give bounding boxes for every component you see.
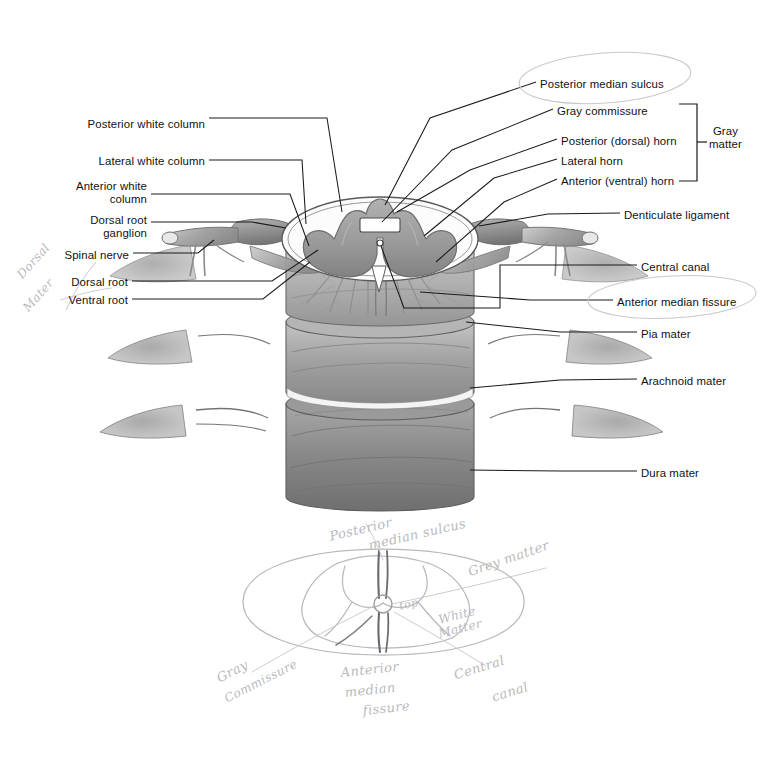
label-dorsal-root: Dorsal root <box>62 276 128 289</box>
label-anterior-ventral-horn: Anterior (ventral) horn <box>561 175 687 188</box>
label-lateral-white-column: Lateral white column <box>96 155 205 168</box>
label-dorsal-root-ganglion: Dorsal root ganglion <box>63 214 147 240</box>
label-anterior-white-column: Anterior white column <box>52 180 147 206</box>
label-arachnoid-mater: Arachnoid mater <box>641 375 737 388</box>
label-pia-mater: Pia mater <box>641 328 699 341</box>
label-gray-commissure: Gray commissure <box>557 105 657 118</box>
label-denticulate-ligament: Denticulate ligament <box>624 209 742 222</box>
label-lateral-horn: Lateral horn <box>561 155 633 168</box>
figure-canvas: Posterior white columnLateral white colu… <box>0 0 760 763</box>
label-ventral-root: Ventral root <box>59 294 128 307</box>
label-posterior-white-column: Posterior white column <box>83 118 205 131</box>
label-spinal-nerve: Spinal nerve <box>58 249 129 262</box>
label-posterior-median-sulcus: Posterior median sulcus <box>540 78 680 91</box>
label-central-canal: Central canal <box>641 261 721 274</box>
label-posterior-dorsal-horn: Posterior (dorsal) horn <box>561 135 687 148</box>
gray-matter-bracket-label: Gray matter <box>709 125 742 151</box>
label-dura-mater: Dura mater <box>641 467 707 480</box>
label-anterior-median-fissure: Anterior median fissure <box>617 296 754 309</box>
